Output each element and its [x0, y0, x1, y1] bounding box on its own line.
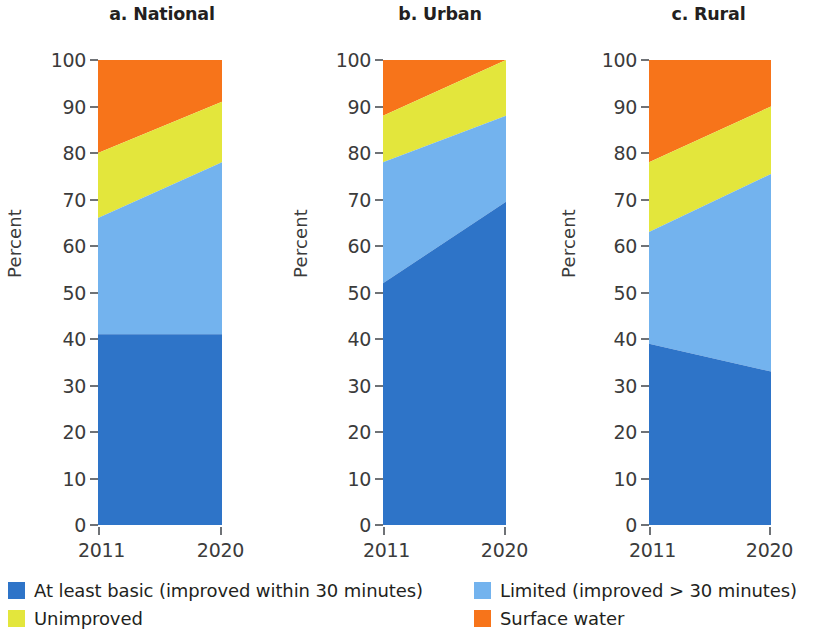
- panel-container: a. National Percent 01020304050607080901…: [0, 0, 831, 575]
- y-tick-label-50-rural: 50: [613, 282, 637, 304]
- legend-label-surface-water: Surface water: [500, 608, 624, 629]
- y-axis-ticks-rural: 0102030405060708090100: [559, 60, 649, 525]
- y-tick-label-60-urban: 60: [347, 235, 371, 257]
- y-tick-label-90-rural: 90: [613, 96, 637, 118]
- y-tick-mark-100-rural: [641, 59, 649, 61]
- panel-urban: b. Urban Percent 0102030405060708090100 …: [290, 0, 560, 575]
- y-tick-label-40-urban: 40: [347, 328, 371, 350]
- y-tick-mark-30-national: [90, 385, 98, 387]
- y-tick-mark-20-rural: [641, 431, 649, 433]
- legend-swatch-limited: [474, 582, 491, 599]
- x-tick-label-2011-rural: 2011: [629, 539, 676, 561]
- y-tick-mark-50-national: [90, 292, 98, 294]
- y-tick-mark-10-urban: [375, 478, 383, 480]
- x-tick-label-2011-urban: 2011: [363, 539, 410, 561]
- area-at-least-basic-national: [98, 334, 222, 525]
- y-tick-mark-20-urban: [375, 431, 383, 433]
- y-tick-mark-80-urban: [375, 152, 383, 154]
- y-tick-mark-100-national: [90, 59, 98, 61]
- x-tick-mark-2011-urban: [383, 527, 385, 535]
- y-tick-label-80-national: 80: [62, 142, 86, 164]
- y-tick-mark-60-national: [90, 245, 98, 247]
- figure-drinking-water-service-levels: a. National Percent 01020304050607080901…: [0, 0, 831, 630]
- plot-area-national: [98, 60, 222, 525]
- y-tick-mark-30-urban: [375, 385, 383, 387]
- y-tick-mark-90-rural: [641, 106, 649, 108]
- y-tick-label-20-rural: 20: [613, 421, 637, 443]
- panel-national: a. National Percent 01020304050607080901…: [0, 0, 290, 575]
- y-tick-label-100-rural: 100: [602, 49, 637, 71]
- y-tick-mark-20-national: [90, 431, 98, 433]
- y-tick-mark-80-rural: [641, 152, 649, 154]
- plot-area-rural: [649, 60, 771, 525]
- y-tick-mark-70-urban: [375, 199, 383, 201]
- stacked-area-national: [98, 60, 222, 525]
- panel-title-national: a. National: [0, 4, 290, 24]
- panel-title-rural: c. Rural: [560, 4, 831, 24]
- y-tick-label-60-national: 60: [62, 235, 86, 257]
- y-tick-mark-90-urban: [375, 106, 383, 108]
- y-tick-mark-0-rural: [641, 524, 649, 526]
- y-tick-mark-0-urban: [375, 524, 383, 526]
- y-tick-label-30-urban: 30: [347, 375, 371, 397]
- y-tick-label-40-national: 40: [62, 328, 86, 350]
- y-tick-label-20-urban: 20: [347, 421, 371, 443]
- x-tick-mark-2011-rural: [649, 527, 651, 535]
- legend-item-unimproved: Unimproved: [8, 608, 143, 629]
- y-tick-mark-60-rural: [641, 245, 649, 247]
- legend-swatch-surface-water: [474, 610, 491, 627]
- y-tick-label-10-national: 10: [62, 468, 86, 490]
- x-tick-label-2011-national: 2011: [78, 539, 125, 561]
- x-tick-label-2020-national: 2020: [197, 539, 244, 561]
- y-tick-label-30-rural: 30: [613, 375, 637, 397]
- y-tick-mark-50-urban: [375, 292, 383, 294]
- y-tick-label-0-national: 0: [74, 514, 86, 536]
- y-tick-label-60-rural: 60: [613, 235, 637, 257]
- y-tick-mark-70-rural: [641, 199, 649, 201]
- plot-area-urban: [383, 60, 506, 525]
- panel-rural: c. Rural Percent 0102030405060708090100 …: [560, 0, 831, 575]
- x-tick-mark-2020-rural: [769, 527, 771, 535]
- x-axis-ticks-urban: 2011 2020: [383, 527, 506, 567]
- legend-label-limited: Limited (improved > 30 minutes): [500, 580, 797, 601]
- y-tick-label-80-rural: 80: [613, 142, 637, 164]
- y-tick-label-0-urban: 0: [359, 514, 371, 536]
- legend-item-at-least-basic: At least basic (improved within 30 minut…: [8, 580, 423, 601]
- chart-legend: At least basic (improved within 30 minut…: [0, 580, 831, 630]
- y-tick-label-70-national: 70: [62, 189, 86, 211]
- legend-swatch-unimproved: [8, 610, 25, 627]
- y-tick-label-90-urban: 90: [347, 96, 371, 118]
- y-tick-mark-0-national: [90, 524, 98, 526]
- y-tick-label-0-rural: 0: [625, 514, 637, 536]
- y-tick-mark-40-rural: [641, 338, 649, 340]
- y-tick-label-80-urban: 80: [347, 142, 371, 164]
- panel-title-urban: b. Urban: [290, 4, 560, 24]
- y-tick-label-10-rural: 10: [613, 468, 637, 490]
- legend-item-surface-water: Surface water: [474, 608, 624, 629]
- y-tick-label-70-rural: 70: [613, 189, 637, 211]
- y-tick-label-50-urban: 50: [347, 282, 371, 304]
- y-tick-label-10-urban: 10: [347, 468, 371, 490]
- y-tick-mark-40-urban: [375, 338, 383, 340]
- y-tick-label-70-urban: 70: [347, 189, 371, 211]
- x-tick-label-2020-rural: 2020: [746, 539, 793, 561]
- y-tick-mark-80-national: [90, 152, 98, 154]
- legend-label-at-least-basic: At least basic (improved within 30 minut…: [34, 580, 423, 601]
- y-tick-mark-90-national: [90, 106, 98, 108]
- x-tick-mark-2020-urban: [504, 527, 506, 535]
- y-tick-mark-30-rural: [641, 385, 649, 387]
- x-tick-mark-2020-national: [220, 527, 222, 535]
- y-tick-label-40-rural: 40: [613, 328, 637, 350]
- y-tick-label-50-national: 50: [62, 282, 86, 304]
- area-at-least-basic-rural: [649, 344, 771, 525]
- y-tick-mark-50-rural: [641, 292, 649, 294]
- y-axis-ticks-national: 0102030405060708090100: [8, 60, 98, 525]
- stacked-area-rural: [649, 60, 771, 525]
- y-tick-mark-10-rural: [641, 478, 649, 480]
- x-axis-ticks-rural: 2011 2020: [649, 527, 771, 567]
- y-tick-label-30-national: 30: [62, 375, 86, 397]
- y-tick-label-100-urban: 100: [336, 49, 371, 71]
- x-tick-mark-2011-national: [98, 527, 100, 535]
- y-tick-mark-10-national: [90, 478, 98, 480]
- legend-swatch-at-least-basic: [8, 582, 25, 599]
